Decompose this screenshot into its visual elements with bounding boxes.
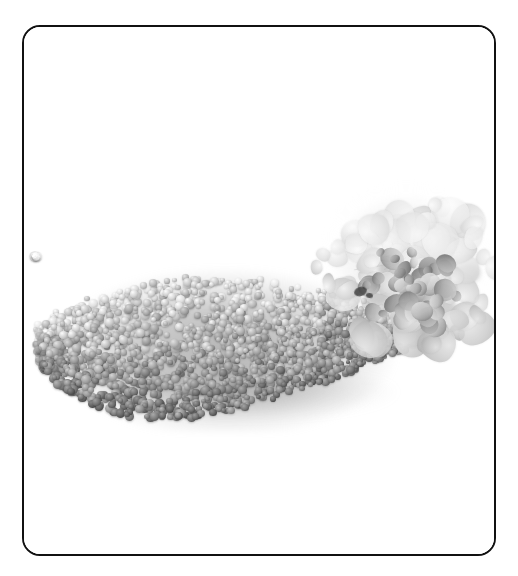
granule <box>287 350 294 357</box>
granule <box>318 359 326 366</box>
granule <box>288 375 294 380</box>
granule <box>209 381 216 388</box>
granule <box>230 286 238 293</box>
granule <box>266 376 274 383</box>
granule <box>333 366 340 373</box>
granule <box>59 331 68 339</box>
granule <box>245 288 252 295</box>
granule <box>271 279 279 287</box>
granule <box>267 341 273 347</box>
granule <box>44 368 52 375</box>
granule <box>243 348 248 353</box>
granule <box>34 346 42 353</box>
granule <box>164 278 170 284</box>
granule <box>176 394 182 399</box>
granule <box>143 299 151 307</box>
granule <box>74 336 80 342</box>
granule <box>217 352 222 357</box>
granule <box>308 382 313 387</box>
granule <box>92 398 101 406</box>
photograph <box>24 27 494 554</box>
granule <box>67 388 75 395</box>
granule <box>192 389 200 396</box>
granule <box>316 379 322 385</box>
granule <box>281 382 287 388</box>
granule <box>267 305 275 313</box>
granule <box>218 357 225 363</box>
granule <box>119 336 128 344</box>
granule <box>188 406 195 413</box>
granule <box>267 387 274 394</box>
screenshot-root: Grayscale photo of a mound of small sphe… <box>0 0 518 576</box>
granule <box>270 396 276 402</box>
granule <box>289 286 295 291</box>
granule <box>192 413 199 420</box>
granule <box>150 412 159 420</box>
granule <box>219 320 227 327</box>
granule <box>121 317 129 324</box>
granule <box>101 296 109 303</box>
granule <box>276 386 283 392</box>
granule <box>305 374 312 381</box>
granule <box>144 414 150 419</box>
granule <box>70 356 78 364</box>
granule <box>125 304 134 312</box>
flower-bud <box>379 310 388 317</box>
granule <box>106 394 113 401</box>
granule <box>190 380 199 388</box>
granule <box>202 363 208 369</box>
granule <box>255 336 262 343</box>
flower-cluster <box>306 167 494 357</box>
granule <box>181 343 188 350</box>
granule <box>292 342 298 347</box>
granule <box>175 412 181 418</box>
granule <box>235 358 240 363</box>
granule <box>258 282 263 287</box>
granule <box>207 391 213 396</box>
granule <box>170 339 179 348</box>
granule <box>238 338 244 343</box>
granule <box>128 377 134 382</box>
granule <box>188 342 194 348</box>
granule <box>276 366 285 374</box>
granule <box>118 398 123 403</box>
granule <box>285 388 293 395</box>
granule <box>141 368 150 377</box>
granule <box>211 366 217 371</box>
granule <box>250 378 256 384</box>
granule <box>161 299 169 306</box>
granule <box>216 406 222 411</box>
granule <box>194 334 200 340</box>
granule <box>105 318 114 327</box>
granule <box>203 403 209 409</box>
granule <box>276 320 282 326</box>
granule <box>135 405 144 414</box>
granule <box>175 323 184 332</box>
granule <box>148 290 155 297</box>
granule <box>200 379 206 384</box>
granule <box>169 310 177 317</box>
granule <box>241 404 249 411</box>
granule <box>136 329 144 337</box>
image-frame <box>22 25 496 556</box>
granule <box>253 347 261 355</box>
granule <box>109 337 116 343</box>
granule <box>206 346 212 352</box>
granule <box>292 327 298 333</box>
granule <box>168 293 175 300</box>
granule <box>238 386 246 394</box>
granule <box>225 350 234 359</box>
granule <box>299 386 305 391</box>
granule <box>60 321 66 326</box>
granule <box>75 380 82 386</box>
granule <box>152 368 160 376</box>
granule <box>72 344 80 352</box>
granule <box>328 376 336 383</box>
granule <box>209 282 214 287</box>
granule <box>99 379 106 385</box>
granule <box>232 333 238 339</box>
granule <box>115 349 121 354</box>
granule <box>296 350 305 358</box>
granule <box>305 359 312 366</box>
granule <box>192 289 198 295</box>
